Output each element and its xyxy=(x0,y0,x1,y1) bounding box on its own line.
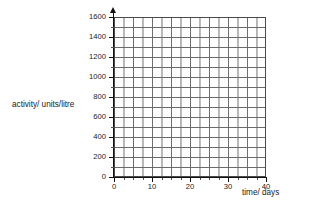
plot-area xyxy=(114,17,266,177)
y-tick-0 xyxy=(109,177,114,178)
x-tick-minor xyxy=(200,178,201,181)
y-tick-label: 200 xyxy=(36,153,106,161)
y-tick-400 xyxy=(109,137,114,138)
x-tick-minor xyxy=(238,178,239,181)
x-tick-minor xyxy=(219,178,220,181)
x-tick-minor xyxy=(124,178,125,181)
graph-figure: activity/ units/litre time/ days 1600 14… xyxy=(0,0,319,202)
x-tick-minor xyxy=(143,178,144,181)
x-tick-minor xyxy=(257,178,258,181)
y-tick-200 xyxy=(109,157,114,158)
y-tick-label: 1000 xyxy=(36,73,106,81)
y-tick-label: 1400 xyxy=(36,33,106,41)
grid-lines xyxy=(114,17,266,177)
y-tick-label: 600 xyxy=(36,113,106,121)
y-axis-title: activity/ units/litre xyxy=(12,100,74,110)
x-tick-minor xyxy=(181,178,182,181)
y-tick-800 xyxy=(109,97,114,98)
y-tick-600 xyxy=(109,117,114,118)
y-tick-1000 xyxy=(109,77,114,78)
y-tick-minor xyxy=(111,47,114,48)
y-tick-minor xyxy=(111,87,114,88)
y-tick-1200 xyxy=(109,57,114,58)
y-tick-minor xyxy=(111,147,114,148)
x-tick-label: 20 xyxy=(175,182,205,191)
x-tick-minor xyxy=(162,178,163,181)
y-tick-label: 0 xyxy=(36,173,106,181)
y-tick-label: 400 xyxy=(36,133,106,141)
y-tick-label: 1600 xyxy=(36,13,106,21)
y-tick-1600 xyxy=(109,17,114,18)
y-tick-label: 800 xyxy=(36,93,106,101)
x-tick-minor xyxy=(133,178,134,181)
x-tick-minor xyxy=(209,178,210,181)
y-tick-minor xyxy=(111,27,114,28)
y-tick-minor xyxy=(111,167,114,168)
y-tick-minor xyxy=(111,67,114,68)
x-tick-label: 0 xyxy=(99,182,129,191)
y-tick-minor xyxy=(111,107,114,108)
x-tick-label: 30 xyxy=(213,182,243,191)
y-tick-minor xyxy=(111,127,114,128)
y-tick-label: 1200 xyxy=(36,53,106,61)
x-tick-label: 10 xyxy=(137,182,167,191)
y-tick-1400 xyxy=(109,37,114,38)
arrow-up-icon xyxy=(110,7,116,13)
x-tick-label: 40 xyxy=(251,182,281,191)
x-tick-minor xyxy=(247,178,248,181)
x-tick-minor xyxy=(171,178,172,181)
